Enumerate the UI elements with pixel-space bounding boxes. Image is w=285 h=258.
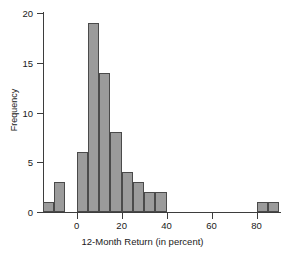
x-tick-label: 40 bbox=[152, 220, 182, 231]
x-tick-label: 60 bbox=[197, 220, 227, 231]
histogram-bar bbox=[77, 152, 88, 212]
x-tick-mark bbox=[77, 213, 78, 219]
histogram-bar bbox=[54, 182, 65, 212]
y-tick-label: 20 bbox=[0, 8, 33, 19]
y-tick-mark bbox=[37, 212, 43, 213]
histogram-bar bbox=[43, 202, 54, 212]
x-tick-label: 0 bbox=[62, 220, 92, 231]
histogram-bar bbox=[155, 192, 166, 212]
y-tick-label: 5 bbox=[0, 157, 33, 168]
y-tick-label: 0 bbox=[0, 207, 33, 218]
histogram-chart: Frequency 05101520 020406080 12-Month Re… bbox=[0, 0, 285, 258]
x-tick-mark bbox=[122, 213, 123, 219]
x-tick-mark bbox=[257, 213, 258, 219]
x-tick-label: 20 bbox=[107, 220, 137, 231]
histogram-bar bbox=[122, 172, 133, 212]
histogram-bar bbox=[88, 23, 99, 212]
y-tick-label: 15 bbox=[0, 57, 33, 68]
x-tick-mark bbox=[167, 213, 168, 219]
x-axis-title: 12-Month Return (in percent) bbox=[0, 236, 285, 247]
x-tick-mark bbox=[212, 213, 213, 219]
histogram-bar bbox=[257, 202, 268, 212]
y-tick-label: 10 bbox=[0, 107, 33, 118]
histogram-bar bbox=[268, 202, 279, 212]
histogram-bar bbox=[110, 132, 121, 212]
plot-area bbox=[43, 13, 279, 212]
x-tick-label: 80 bbox=[242, 220, 272, 231]
histogram-bar bbox=[144, 192, 155, 212]
histogram-bar bbox=[133, 182, 144, 212]
histogram-bar bbox=[99, 73, 110, 212]
